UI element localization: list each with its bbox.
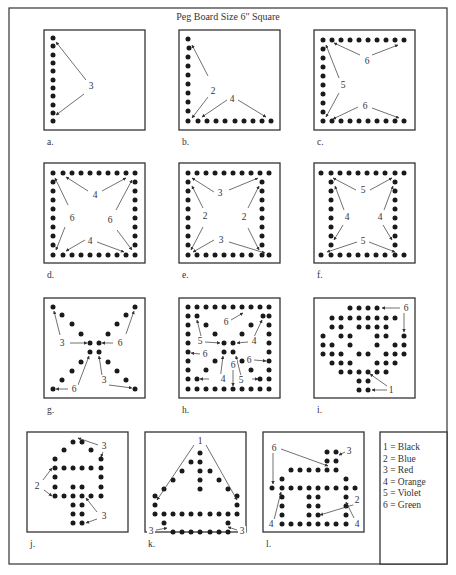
peg-dot — [334, 459, 339, 464]
peg-dot — [217, 530, 222, 535]
peg-dot — [235, 494, 240, 499]
peg-dot — [222, 253, 227, 258]
peg-dot — [240, 387, 245, 392]
peg-dot — [198, 512, 203, 517]
peg-dot — [251, 119, 256, 124]
peg-dot — [51, 189, 56, 194]
color-number: 5 — [341, 80, 346, 90]
peg-dot — [348, 316, 353, 321]
peg-dot — [51, 234, 56, 239]
peg-dot — [89, 494, 94, 499]
peg-board-diagram: Peg Board Size 6" Square 3a.24b.656c.466… — [0, 0, 456, 575]
peg-dot — [133, 180, 138, 185]
peg-dot — [334, 486, 339, 491]
peg-dot — [321, 56, 326, 61]
peg-dot — [334, 450, 339, 455]
pegboard-square — [314, 163, 415, 263]
peg-dot — [198, 478, 203, 483]
peg-dot — [260, 180, 265, 185]
peg-dot — [393, 225, 398, 230]
peg-dot — [357, 370, 362, 375]
peg-dot — [374, 253, 379, 258]
peg-dot — [319, 253, 324, 258]
peg-dot — [339, 370, 344, 375]
peg-dot — [99, 485, 104, 490]
color-number: 3 — [218, 188, 223, 198]
peg-dot — [204, 387, 209, 392]
peg-dot — [235, 503, 240, 508]
peg-dot — [298, 486, 303, 491]
peg-dot — [115, 171, 120, 176]
peg-dot — [280, 486, 285, 491]
peg-dot — [366, 325, 371, 330]
peg-dot — [186, 189, 191, 194]
peg-dot — [223, 119, 228, 124]
peg-dot — [217, 478, 222, 483]
peg-dot — [393, 207, 398, 212]
peg-dot — [249, 323, 254, 328]
peg-dot — [71, 503, 76, 508]
peg-dot — [51, 207, 56, 212]
peg-dot — [366, 316, 371, 321]
color-number: 5 — [361, 236, 366, 246]
peg-dot — [186, 305, 191, 310]
legend-item-red: 3 = Red — [383, 465, 413, 475]
peg-dot — [153, 512, 158, 517]
peg-dot — [106, 360, 111, 365]
peg-dot — [62, 494, 67, 499]
peg-dot — [344, 486, 349, 491]
peg-dot — [124, 253, 129, 258]
color-number: 6 — [224, 317, 229, 327]
panel-i: 61i. — [314, 298, 415, 415]
peg-dot — [60, 378, 65, 383]
peg-dot — [133, 234, 138, 239]
peg-dot — [186, 243, 191, 248]
peg-dot — [133, 225, 138, 230]
peg-dot — [366, 352, 371, 357]
color-number: 6 — [231, 360, 236, 370]
peg-dot — [260, 243, 265, 248]
peg-dot — [171, 512, 176, 517]
peg-dot — [51, 171, 56, 176]
peg-dot — [88, 350, 93, 355]
color-number: 3 — [102, 375, 107, 385]
peg-dot — [240, 253, 245, 258]
color-number: 6 — [404, 303, 409, 313]
peg-dot — [366, 119, 371, 124]
peg-dot — [384, 119, 389, 124]
peg-dot — [187, 46, 192, 51]
pegboard-square — [179, 163, 280, 263]
peg-dot — [186, 368, 191, 373]
peg-dot — [231, 350, 236, 355]
peg-dot — [375, 316, 380, 321]
peg-dot — [329, 234, 334, 239]
peg-dot — [357, 38, 362, 43]
peg-dot — [348, 334, 353, 339]
peg-dot — [80, 512, 85, 517]
color-number: 4 — [252, 336, 257, 346]
peg-dot — [51, 61, 56, 66]
peg-dot — [213, 253, 218, 258]
peg-dot — [298, 522, 303, 527]
peg-dot — [267, 359, 272, 364]
peg-dot — [393, 198, 398, 203]
color-number: 6 — [203, 349, 208, 359]
peg-dot — [280, 513, 285, 518]
peg-dot — [133, 243, 138, 248]
peg-dot — [217, 512, 222, 517]
peg-dot — [402, 253, 407, 258]
color-number: 4 — [345, 212, 350, 222]
peg-dot — [195, 305, 200, 310]
color-number: 6 — [363, 101, 368, 111]
peg-dot — [260, 216, 265, 221]
peg-dot — [196, 119, 201, 124]
peg-dot — [70, 171, 75, 176]
peg-dot — [329, 171, 334, 176]
peg-dot — [115, 322, 120, 327]
peg-dot — [393, 253, 398, 258]
peg-dot — [321, 74, 326, 79]
peg-dot — [339, 352, 344, 357]
peg-dot — [334, 468, 339, 473]
peg-dot — [79, 360, 84, 365]
pegboard-square — [44, 30, 145, 130]
